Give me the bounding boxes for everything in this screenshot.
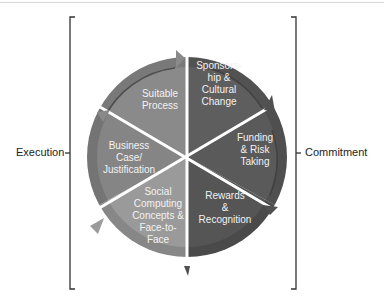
- segment-label-rewards: Rewards & Recognition: [192, 190, 258, 226]
- commitment-bracket: [291, 17, 301, 289]
- segment-label-business-case: Business Case/ Justification: [94, 140, 164, 176]
- execution-bracket: [65, 17, 75, 289]
- segment-label-social-computing: Social Computing Concepts & Face-to- Fac…: [126, 186, 190, 246]
- segment-label-funding: Funding & Risk Taking: [228, 132, 282, 168]
- segment-label-sponsorship: Sponsors- hip & Cultural Change: [189, 60, 249, 108]
- segment-label-suitable-process: Suitable Process: [130, 88, 190, 112]
- execution-label: Execution: [16, 146, 64, 158]
- commitment-label: Commitment: [305, 146, 367, 158]
